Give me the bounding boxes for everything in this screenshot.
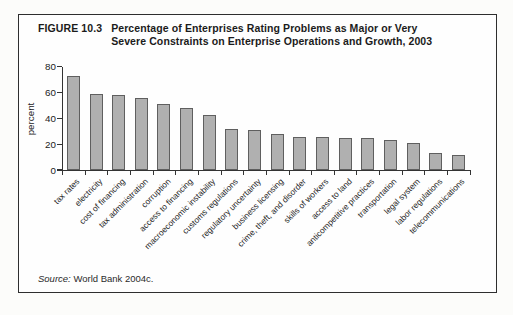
y-axis-line	[62, 67, 63, 170]
bar	[112, 95, 125, 170]
bar	[203, 115, 216, 171]
bar	[293, 137, 306, 171]
bar	[384, 140, 397, 170]
scanned-page: FIGURE 10.3 Percentage of Enterprises Ra…	[0, 0, 513, 315]
bar	[248, 130, 261, 170]
bar	[339, 138, 352, 170]
bar	[271, 134, 284, 170]
bar	[157, 104, 170, 170]
y-tick-label: 0	[27, 165, 56, 176]
bar	[90, 94, 103, 170]
bar	[67, 76, 80, 170]
bar	[361, 138, 374, 170]
y-tick-label: 60	[27, 87, 56, 98]
bar	[429, 153, 442, 170]
source-note: Source: World Bank 2004c.	[38, 273, 153, 284]
figure-box: FIGURE 10.3 Percentage of Enterprises Ra…	[18, 14, 497, 293]
bar	[407, 143, 420, 170]
bar	[225, 129, 238, 170]
y-tick-label: 40	[27, 113, 56, 124]
source-text: World Bank 2004c.	[73, 273, 153, 284]
y-tick-label: 80	[27, 61, 56, 72]
x-axis-line	[62, 170, 471, 171]
y-tick-label: 20	[27, 139, 56, 150]
bar-chart: percent 020406080tax rateselectricitycos…	[19, 15, 495, 291]
bar	[316, 137, 329, 171]
bar	[180, 108, 193, 170]
bar	[135, 98, 148, 170]
bar	[452, 155, 465, 171]
source-label: Source:	[38, 273, 71, 284]
